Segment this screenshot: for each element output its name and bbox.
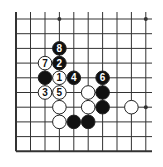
move-number: 5 xyxy=(57,87,63,98)
black-stone xyxy=(38,71,52,85)
move-number: 7 xyxy=(42,58,48,69)
move-number: 4 xyxy=(71,72,77,83)
white-stone-3: 3 xyxy=(38,86,52,100)
grid-lines xyxy=(16,12,152,151)
white-stone-5: 5 xyxy=(53,86,67,100)
white-stone xyxy=(53,115,67,129)
black-stone-6: 6 xyxy=(96,71,110,85)
black-stone-2: 2 xyxy=(53,56,67,70)
star-point xyxy=(57,17,61,21)
white-stone-1: 1 xyxy=(53,71,67,85)
black-stone-4: 4 xyxy=(67,71,81,85)
move-number: 1 xyxy=(57,72,63,83)
white-stone xyxy=(81,86,95,100)
star-point xyxy=(144,105,148,109)
white-stone xyxy=(125,100,139,114)
black-stone xyxy=(96,86,110,100)
star-point xyxy=(144,17,148,21)
move-number: 2 xyxy=(57,58,63,69)
black-stone xyxy=(67,115,81,129)
move-number: 8 xyxy=(57,43,63,54)
move-number: 3 xyxy=(42,87,48,98)
black-stone xyxy=(96,100,110,114)
white-stone xyxy=(81,100,95,114)
white-stone-7: 7 xyxy=(38,56,52,70)
black-stone-8: 8 xyxy=(53,42,67,56)
move-number: 6 xyxy=(100,72,106,83)
white-stone xyxy=(53,100,67,114)
go-board: 87214635 xyxy=(0,0,163,167)
black-stone xyxy=(81,115,95,129)
